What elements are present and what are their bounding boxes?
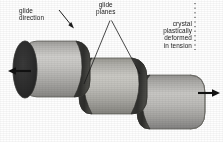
glide-direction-arrow: [59, 10, 74, 29]
label-glide-planes: glide planes: [96, 1, 115, 15]
label-crystal-state-line2: plastically: [150, 27, 192, 34]
label-crystal-state-line4: in tension: [150, 42, 192, 49]
label-crystal-state: crystal plastically deformed in tension: [150, 20, 192, 49]
label-glide-planes-line2: planes: [96, 8, 115, 15]
figure-canvas: glide direction glide planes crystal pla…: [0, 0, 223, 142]
label-glide-direction: glide direction: [19, 7, 44, 21]
label-crystal-state-line1: crystal: [150, 20, 192, 27]
label-glide-planes-line1: glide: [96, 1, 115, 8]
label-crystal-state-line3: deformed: [150, 34, 192, 41]
left-segment: [13, 41, 90, 98]
label-glide-direction-line1: glide: [19, 7, 44, 14]
label-glide-direction-line2: direction: [19, 14, 44, 21]
